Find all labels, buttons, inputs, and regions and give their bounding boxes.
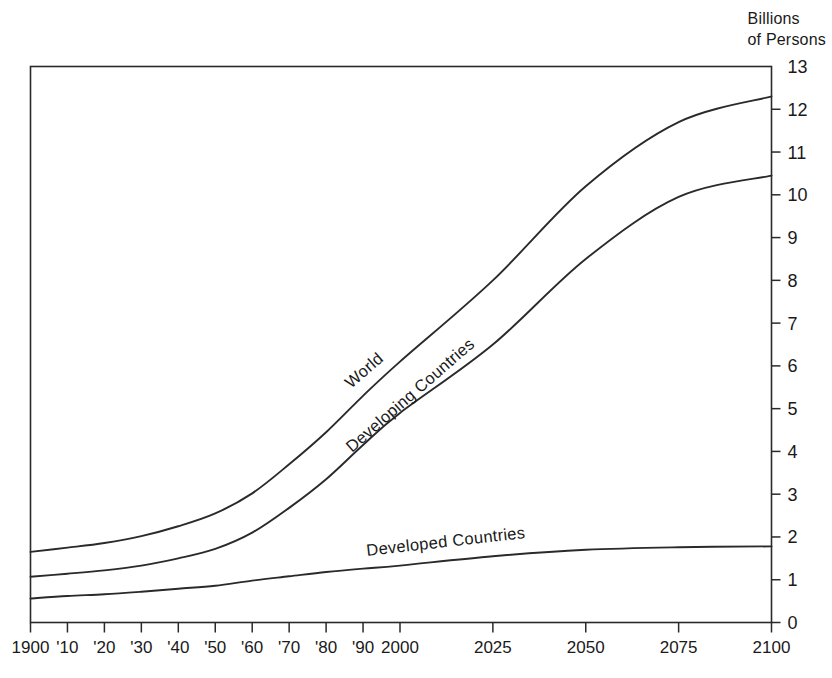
x-tick-label: '70 xyxy=(278,638,300,657)
series-inline-labels: WorldDeveloping CountriesDeveloped Count… xyxy=(341,334,526,559)
curve-world xyxy=(31,96,772,551)
y-axis-title: Billions of Persons xyxy=(748,8,826,50)
x-tick-label: '50 xyxy=(204,638,226,657)
x-tick-label: 2000 xyxy=(381,638,419,657)
y-tick-label: 13 xyxy=(788,57,808,77)
x-tick-label: 1900 xyxy=(12,638,50,657)
y-tick-label: 7 xyxy=(788,314,798,334)
x-tick-label: '40 xyxy=(167,638,189,657)
x-tick-label: 2050 xyxy=(567,638,605,657)
x-tick-label: '90 xyxy=(352,638,374,657)
x-tick-label: '80 xyxy=(315,638,337,657)
y-tick-label: 12 xyxy=(788,100,808,120)
x-tick-label: '20 xyxy=(93,638,115,657)
y-tick-label: 8 xyxy=(788,271,798,291)
y-tick-label: 5 xyxy=(788,399,798,419)
y-tick-label: 1 xyxy=(788,570,798,590)
x-tick-label: '30 xyxy=(130,638,152,657)
x-tick-label: 2075 xyxy=(660,638,698,657)
x-tick-label: '60 xyxy=(241,638,263,657)
y-tick-label: 6 xyxy=(788,356,798,376)
y-tick-label: 3 xyxy=(788,485,798,505)
series-curves xyxy=(31,96,772,598)
y-tick-label: 9 xyxy=(788,228,798,248)
series-label-world: World xyxy=(341,349,386,392)
y-tick-label: 4 xyxy=(788,442,798,462)
curve-developing-countries xyxy=(31,176,772,577)
x-tick-label: 2100 xyxy=(753,638,791,657)
y-tick-label: 2 xyxy=(788,527,798,547)
x-axis-ticks: 1900'10'20'30'40'50'60'70'80'90200020252… xyxy=(12,623,791,657)
x-tick-label: '10 xyxy=(56,638,78,657)
chart-canvas: 012345678910111213 1900'10'20'30'40'50'6… xyxy=(0,0,832,678)
y-axis-ticks: 012345678910111213 xyxy=(788,57,808,633)
y-tick-label: 10 xyxy=(788,185,808,205)
y-tick-label: 0 xyxy=(788,613,798,633)
y-tick-label: 11 xyxy=(788,143,807,163)
series-label-developed: Developed Countries xyxy=(365,523,526,559)
population-projection-chart: Billions of Persons 012345678910111213 1… xyxy=(0,0,832,678)
x-tick-label: 2025 xyxy=(474,638,512,657)
